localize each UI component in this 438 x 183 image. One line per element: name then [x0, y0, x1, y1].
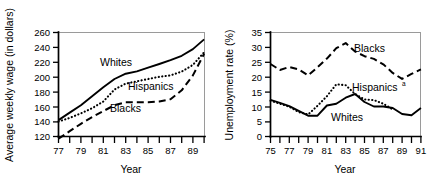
chart-panel-unemployment: 35 30 25 20 15 10 5 0 — [219, 0, 438, 183]
unemployment-xtick-89: 89 — [397, 145, 408, 156]
wages-xtick-79: 79 — [76, 145, 87, 156]
unemployment-ytick-15: 15 — [251, 87, 262, 98]
wages-x-ticks — [59, 137, 205, 144]
wages-chart-svg: 260 240 220 200 180 160 140 120 — [0, 0, 219, 183]
unemployment-ytick-25: 25 — [251, 57, 262, 68]
wages-ytick-120: 120 — [34, 131, 50, 142]
unemployment-series-labels: Blacks Hispanics a Whites — [331, 42, 406, 123]
unemployment-ytick-30: 30 — [251, 42, 262, 53]
wages-label-whites: Whites — [100, 56, 132, 68]
unemployment-series — [271, 43, 421, 116]
wages-y-tick-labels: 260 240 220 200 180 160 140 120 — [34, 27, 50, 142]
unemployment-ytick-5: 5 — [257, 116, 262, 127]
unemployment-xtick-85: 85 — [359, 145, 370, 156]
wages-x-tick-labels: 77 79 81 83 85 87 89 — [53, 145, 198, 156]
unemployment-chart-svg: 35 30 25 20 15 10 5 0 — [219, 0, 438, 183]
unemployment-xtick-75: 75 — [265, 145, 276, 156]
wages-ytick-140: 140 — [34, 116, 50, 127]
wages-ytick-180: 180 — [34, 87, 50, 98]
unemployment-xtick-91: 91 — [416, 145, 427, 156]
unemployment-label-hispanics-group: Hispanics a — [352, 80, 406, 93]
wages-yaxis-title: Average weekly wage (in dollars) — [3, 8, 15, 162]
unemployment-xtick-83: 83 — [340, 145, 351, 156]
wages-ytick-220: 220 — [34, 57, 50, 68]
wages-ytick-260: 260 — [34, 27, 50, 38]
wages-xaxis-title: Year — [120, 163, 142, 175]
unemployment-y-tick-labels: 35 30 25 20 15 10 5 0 — [251, 27, 262, 142]
wages-label-hispanics: Hispanics — [128, 80, 174, 92]
wages-xtick-85: 85 — [143, 145, 154, 156]
unemployment-x-ticks — [271, 137, 421, 144]
unemployment-xtick-77: 77 — [284, 145, 295, 156]
unemployment-ytick-20: 20 — [251, 72, 262, 83]
unemployment-ytick-35: 35 — [251, 27, 262, 38]
unemployment-ytick-0: 0 — [257, 131, 262, 142]
figure-container: 260 240 220 200 180 160 140 120 — [0, 0, 438, 183]
wages-xtick-87: 87 — [165, 145, 176, 156]
unemployment-xtick-87: 87 — [378, 145, 389, 156]
unemployment-label-whites: Whites — [331, 111, 363, 123]
unemployment-xtick-79: 79 — [303, 145, 314, 156]
wages-xtick-89: 89 — [188, 145, 199, 156]
unemployment-label-blacks: Blacks — [354, 42, 385, 54]
wages-label-blacks: Blacks — [110, 102, 141, 114]
wages-ytick-160: 160 — [34, 102, 50, 113]
unemployment-label-hispanics-superscript: a — [402, 80, 406, 87]
chart-panel-wages: 260 240 220 200 180 160 140 120 — [0, 0, 219, 183]
wages-xtick-81: 81 — [98, 145, 109, 156]
wages-series-labels: Whites Hispanics Blacks — [100, 56, 174, 114]
unemployment-yaxis-title: Unemployment rate (%) — [223, 30, 235, 141]
wages-ytick-200: 200 — [34, 72, 50, 83]
unemployment-label-hispanics: Hispanics — [352, 81, 398, 93]
unemployment-x-tick-labels: 75 77 79 81 83 85 87 89 91 — [265, 145, 426, 156]
wages-xtick-83: 83 — [120, 145, 131, 156]
wages-xtick-77: 77 — [53, 145, 64, 156]
unemployment-xaxis-title: Year — [334, 163, 356, 175]
unemployment-series-blacks — [271, 43, 421, 79]
unemployment-xtick-81: 81 — [322, 145, 333, 156]
wages-ytick-240: 240 — [34, 42, 50, 53]
unemployment-ytick-10: 10 — [251, 102, 262, 113]
